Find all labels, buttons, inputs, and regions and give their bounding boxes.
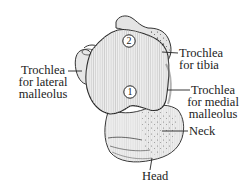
marker-1-text: 1 bbox=[124, 86, 136, 98]
label-line: malleolus bbox=[18, 88, 68, 100]
label-head: Head bbox=[142, 170, 168, 182]
label-neck: Neck bbox=[189, 125, 215, 137]
talus-diagram: 2 1 Trochlea for lateral malleolus Troch… bbox=[0, 0, 251, 192]
label-trochlea-medial-malleolus: Trochlea for medial malleolus bbox=[186, 84, 240, 120]
label-line: Head bbox=[142, 170, 168, 182]
label-line: for tibia bbox=[179, 59, 223, 71]
marker-2-text: 2 bbox=[123, 35, 135, 47]
neck-and-head-shape bbox=[105, 105, 184, 162]
label-trochlea-lateral-malleolus: Trochlea for lateral malleolus bbox=[18, 64, 68, 100]
label-line: Neck bbox=[189, 125, 215, 137]
label-line: malleolus bbox=[186, 108, 240, 120]
label-trochlea-tibia: Trochlea for tibia bbox=[179, 47, 223, 71]
